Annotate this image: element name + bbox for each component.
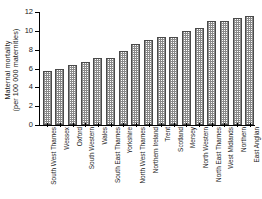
x-tick-mark — [47, 123, 48, 127]
x-axis-label: North East Thames — [215, 127, 222, 182]
bar — [55, 69, 64, 126]
y-tick-label: 4 — [19, 83, 33, 91]
bar — [144, 40, 153, 125]
bar — [43, 71, 52, 125]
x-tick-mark — [174, 123, 175, 127]
x-tick-mark — [60, 123, 61, 127]
x-tick-mark — [136, 123, 137, 127]
bar — [106, 58, 115, 125]
bar — [68, 65, 77, 125]
x-tick-mark — [98, 123, 99, 127]
bar — [207, 21, 216, 125]
bar — [195, 28, 204, 125]
x-tick-mark — [161, 123, 162, 127]
y-tick-mark — [35, 106, 39, 107]
y-tick-mark — [35, 87, 39, 88]
y-tick-mark — [35, 12, 39, 13]
x-axis-label: South West Thames — [50, 127, 57, 185]
x-tick-mark — [212, 123, 213, 127]
y-tick-mark — [35, 50, 39, 51]
bar — [157, 37, 166, 125]
bar — [81, 62, 90, 125]
bar — [131, 44, 140, 125]
x-tick-mark — [111, 123, 112, 127]
x-tick-mark — [224, 123, 225, 127]
bar — [93, 58, 102, 125]
y-tick-label: 10 — [19, 27, 33, 35]
x-axis-label: Scotland — [177, 127, 184, 152]
bar — [182, 31, 191, 125]
x-axis-label: Trent — [164, 127, 171, 142]
bar — [233, 18, 242, 125]
x-axis-line — [39, 125, 255, 126]
bar — [220, 21, 229, 125]
x-axis-label: Wessex — [63, 127, 70, 150]
plot-area — [40, 12, 255, 125]
x-axis-label: South East Thames — [114, 127, 121, 183]
x-axis-label: Wales — [101, 127, 108, 145]
x-tick-mark — [149, 123, 150, 127]
x-axis-label: North Western — [202, 127, 209, 168]
x-axis-label: Oxford — [76, 127, 83, 146]
x-axis-labels: South West ThamesWessexOxfordSouth Weste… — [40, 127, 255, 199]
x-axis-label: Northern Ireland — [152, 127, 159, 173]
x-axis-label: East Anglian — [253, 127, 260, 163]
maternal-mortality-bar-chart: Maternal mortality (per 100 000 maternit… — [0, 0, 262, 199]
bar — [119, 51, 128, 125]
y-tick-label: 2 — [19, 102, 33, 110]
y-tick-label: 6 — [19, 65, 33, 73]
bar — [169, 37, 178, 125]
x-axis-label: Northern — [240, 127, 247, 152]
x-axis-label: South Western — [88, 127, 95, 169]
y-tick-label: 0 — [19, 121, 33, 129]
x-axis-label: West Midlands — [227, 127, 234, 169]
x-axis-label: Yorkshire — [126, 127, 133, 153]
x-tick-mark — [123, 123, 124, 127]
x-tick-mark — [199, 123, 200, 127]
y-tick-mark — [35, 125, 39, 126]
y-tick-mark — [35, 31, 39, 32]
bar — [245, 16, 254, 125]
x-tick-mark — [250, 123, 251, 127]
x-axis-label: Mersey — [189, 127, 196, 148]
y-tick-label: 12 — [19, 8, 33, 16]
x-tick-mark — [237, 123, 238, 127]
x-tick-mark — [73, 123, 74, 127]
y-tick-mark — [35, 69, 39, 70]
x-tick-mark — [85, 123, 86, 127]
x-axis-label: North West Thames — [139, 127, 146, 184]
y-tick-label: 8 — [19, 46, 33, 54]
x-tick-mark — [186, 123, 187, 127]
